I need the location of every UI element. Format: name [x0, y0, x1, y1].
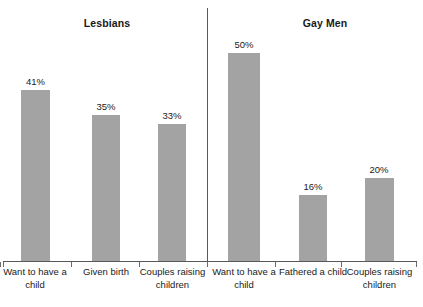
category-label-line1: Want to have a: [0, 266, 70, 279]
category-label-line2: child: [0, 279, 70, 292]
category-label-line1: Fathered a child: [278, 266, 348, 279]
bar-value-label: 16%: [283, 181, 343, 192]
axis-tick: [416, 262, 417, 267]
bar: [299, 195, 327, 261]
bar: [21, 90, 50, 261]
bar: [92, 115, 120, 261]
category-label: Fathered a child: [278, 266, 348, 279]
category-label: Want to have a child: [0, 266, 70, 291]
group-title-gay-men: Gay Men: [275, 17, 375, 29]
x-axis-line: [3, 261, 417, 262]
bar-value-label: 20%: [349, 164, 409, 175]
bar: [158, 124, 186, 261]
bar-chart: Lesbians Gay Men 41% Want to have a chil…: [0, 0, 423, 307]
group-title-lesbians: Lesbians: [57, 17, 157, 29]
category-label-line1: Given birth: [71, 266, 141, 279]
category-label: Given birth: [71, 266, 141, 279]
bar-value-label: 35%: [76, 101, 136, 112]
category-label: Couples raising children: [137, 266, 208, 291]
bar: [228, 53, 260, 261]
bar: [365, 178, 394, 261]
category-label: Couples raising children: [344, 266, 415, 291]
category-label: Want to have a child: [209, 266, 279, 291]
bar-value-label: 41%: [5, 76, 66, 87]
category-label-line2: children: [344, 279, 415, 292]
bar-value-label: 33%: [142, 110, 202, 121]
category-label-line1: Couples raising: [137, 266, 208, 279]
category-label-line2: child: [209, 279, 279, 292]
category-label-line2: children: [137, 279, 208, 292]
category-label-line1: Want to have a: [209, 266, 279, 279]
group-divider: [207, 8, 208, 263]
bar-value-label: 50%: [214, 39, 274, 50]
category-label-line1: Couples raising: [344, 266, 415, 279]
